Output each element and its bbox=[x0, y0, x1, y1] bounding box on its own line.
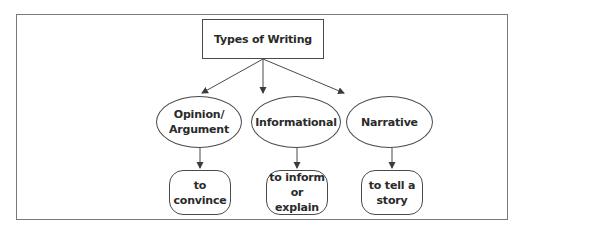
arrow-title-to-opinion bbox=[202, 59, 263, 93]
category-label: Opinion/ Argument bbox=[169, 107, 229, 137]
category-narrative-ellipse: Narrative bbox=[346, 96, 433, 148]
purpose-label: to convince bbox=[173, 178, 226, 208]
title-box: Types of Writing bbox=[202, 19, 324, 59]
purpose-convince-box: to convince bbox=[169, 170, 231, 215]
title-label: Types of Writing bbox=[214, 32, 312, 47]
category-informational-ellipse: Informational bbox=[251, 96, 341, 148]
purpose-label: to tell a story bbox=[369, 178, 415, 208]
category-label: Narrative bbox=[361, 115, 418, 130]
category-opinion-ellipse: Opinion/ Argument bbox=[156, 96, 242, 148]
category-label: Informational bbox=[255, 115, 337, 130]
purpose-inform-box: to inform or explain bbox=[266, 170, 328, 215]
arrow-title-to-narrative bbox=[263, 59, 344, 93]
purpose-label: to inform or explain bbox=[267, 170, 327, 215]
purpose-story-box: to tell a story bbox=[361, 170, 423, 215]
